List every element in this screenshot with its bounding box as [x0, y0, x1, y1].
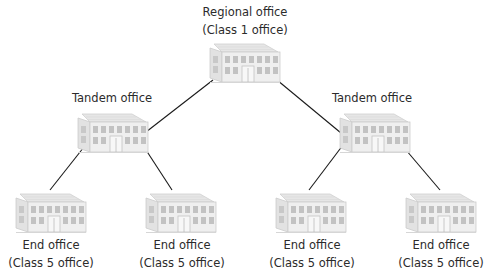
office-building-icon-regional — [210, 44, 280, 83]
node-end-4-label: End office (Class 5 office) — [398, 236, 483, 272]
node-tandem-right-label: Tandem office — [332, 89, 412, 107]
node-regional-name: Regional office — [202, 3, 287, 21]
edge-tandem-left-end-1 — [50, 147, 84, 190]
connection-lines — [0, 0, 487, 276]
node-end-3-label: End office (Class 5 office) — [269, 236, 354, 272]
node-end-2-class: (Class 5 office) — [139, 254, 224, 272]
office-building-icon-end-2 — [146, 194, 216, 233]
node-regional-label: Regional office (Class 1 office) — [202, 3, 287, 39]
node-tandem-left-label: Tandem office — [72, 89, 152, 107]
node-end-4-class: (Class 5 office) — [398, 254, 483, 272]
edge-tandem-right-end-4 — [406, 150, 440, 190]
node-tandem-right-name: Tandem office — [332, 89, 412, 107]
node-end-1-name: End office — [8, 236, 93, 254]
office-building-icon-end-1 — [16, 194, 86, 233]
node-regional-class: (Class 1 office) — [202, 21, 287, 39]
node-end-3-name: End office — [269, 236, 354, 254]
node-end-2-label: End office (Class 5 office) — [139, 236, 224, 272]
office-building-icon-end-3 — [276, 194, 346, 233]
edge-tandem-right-end-3 — [309, 145, 343, 190]
edge-regional-tandem-left — [146, 80, 213, 132]
office-building-icon-tandem-left — [78, 114, 148, 153]
node-end-3-class: (Class 5 office) — [269, 254, 354, 272]
office-building-icon-tandem-right — [340, 114, 410, 153]
node-end-2-name: End office — [139, 236, 224, 254]
node-tandem-left-name: Tandem office — [72, 89, 152, 107]
node-end-1-label: End office (Class 5 office) — [8, 236, 93, 272]
office-building-icon-end-4 — [406, 194, 476, 233]
node-end-4-name: End office — [398, 236, 483, 254]
node-end-1-class: (Class 5 office) — [8, 254, 93, 272]
edge-tandem-left-end-2 — [146, 150, 172, 190]
